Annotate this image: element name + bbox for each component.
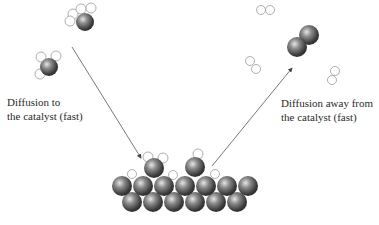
catalyst-surface (112, 149, 258, 212)
hydrogen-molecule-icon (257, 6, 275, 15)
diffusion-away-label: Diffusion away from the catalyst (fast) (281, 96, 373, 124)
product-molecule-icon (287, 25, 319, 57)
label-line: Diffusion away from (281, 96, 373, 110)
diffusion-to-catalyst-label: Diffusion to the catalyst (fast) (7, 95, 83, 123)
methane-molecule-icon (65, 3, 96, 31)
arrow-away-from-catalyst (212, 68, 292, 166)
label-line: the catalyst (fast) (281, 110, 373, 124)
hydrogen-molecule-icon (328, 67, 340, 85)
methane-molecule-icon (35, 51, 61, 79)
label-line: Diffusion to (7, 95, 83, 109)
hydrogen-molecule-icon (246, 57, 261, 74)
catalysis-diagram: Diffusion to the catalyst (fast) Diffusi… (0, 0, 379, 225)
label-line: the catalyst (fast) (7, 109, 83, 123)
